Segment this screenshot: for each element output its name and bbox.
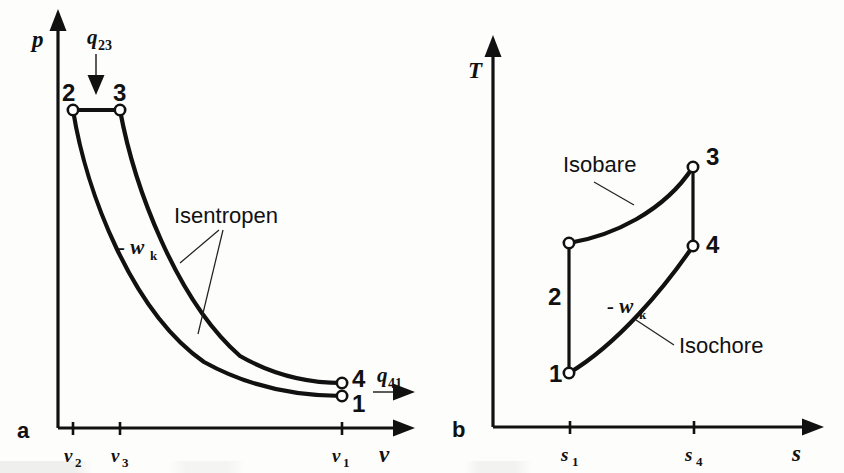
state-point-markers: [68, 105, 347, 401]
isochore-callout: Isochore: [636, 320, 763, 358]
state-point-1: [564, 368, 574, 378]
y-axis-label: T: [468, 58, 483, 83]
y-axis-label: p: [30, 27, 44, 52]
work-annotation-wk: - w k: [118, 235, 158, 263]
wk-label: - w: [607, 294, 634, 318]
isentropen-leader-lower: [198, 230, 223, 334]
panel-label-a: a: [17, 418, 30, 443]
x-axis-s: s: [493, 419, 824, 467]
curve-2-1-isentropic: [73, 110, 342, 396]
label-point-4: 4: [706, 231, 720, 258]
label-point-4: 4: [352, 365, 366, 392]
isobare-label: Isobare: [563, 152, 636, 177]
work-annotation-wk: - w k: [607, 294, 647, 322]
isentropen-label: Isentropen: [174, 203, 278, 228]
figure-root: p v v 2 v 3 v 1: [0, 0, 844, 473]
q23-arrowhead: [88, 75, 105, 95]
state-point-4: [688, 241, 698, 251]
x-axis-arrowhead: [393, 420, 415, 437]
q41-arrowhead: [393, 384, 415, 401]
isentropen-leader-upper: [180, 230, 219, 263]
label-point-2: 2: [548, 283, 561, 310]
label-point-1: 1: [549, 360, 562, 387]
label-point-3: 3: [706, 143, 719, 170]
scan-artifact: [0, 461, 844, 473]
panel-label-b: b: [452, 417, 465, 442]
isochore-label: Isochore: [679, 333, 763, 358]
q23-subscript: 23: [98, 38, 112, 53]
y-axis-T: T: [468, 35, 502, 427]
panel-a-pv-diagram: p v v 2 v 3 v 1: [0, 0, 422, 473]
y-axis-arrowhead: [485, 35, 502, 57]
state-point-2: [68, 105, 78, 115]
state-point-3: [115, 105, 125, 115]
isochore-leader: [636, 320, 674, 345]
wk-subscript: k: [150, 248, 158, 263]
process-curves: [569, 167, 693, 373]
y-axis-p: p: [30, 9, 67, 428]
curve-2-3-isobare: [569, 167, 693, 243]
process-curves: [73, 110, 342, 396]
q23-label: q: [87, 25, 98, 49]
isobare-leader: [594, 182, 634, 205]
y-axis-arrowhead: [50, 9, 67, 31]
isobare-callout: Isobare: [563, 152, 636, 205]
x-axis-arrowhead: [802, 419, 824, 436]
heat-output-annotation-q41: q 41: [373, 363, 415, 401]
state-point-2: [564, 238, 574, 248]
q41-label: q: [377, 363, 388, 387]
heat-input-annotation-q23: q 23: [87, 25, 112, 95]
wk-subscript: k: [639, 307, 647, 322]
label-point-3: 3: [113, 79, 126, 106]
label-point-2: 2: [62, 79, 75, 106]
state-point-1: [337, 391, 347, 401]
label-point-1: 1: [352, 390, 365, 417]
curve-3-4-isentropic: [120, 110, 342, 383]
state-point-4: [337, 378, 347, 388]
wk-label: - w: [118, 235, 145, 259]
state-point-3: [688, 162, 698, 172]
isentropen-callout: Isentropen: [174, 203, 278, 334]
panel-b-ts-diagram: T s s 1 s 4: [422, 0, 844, 473]
